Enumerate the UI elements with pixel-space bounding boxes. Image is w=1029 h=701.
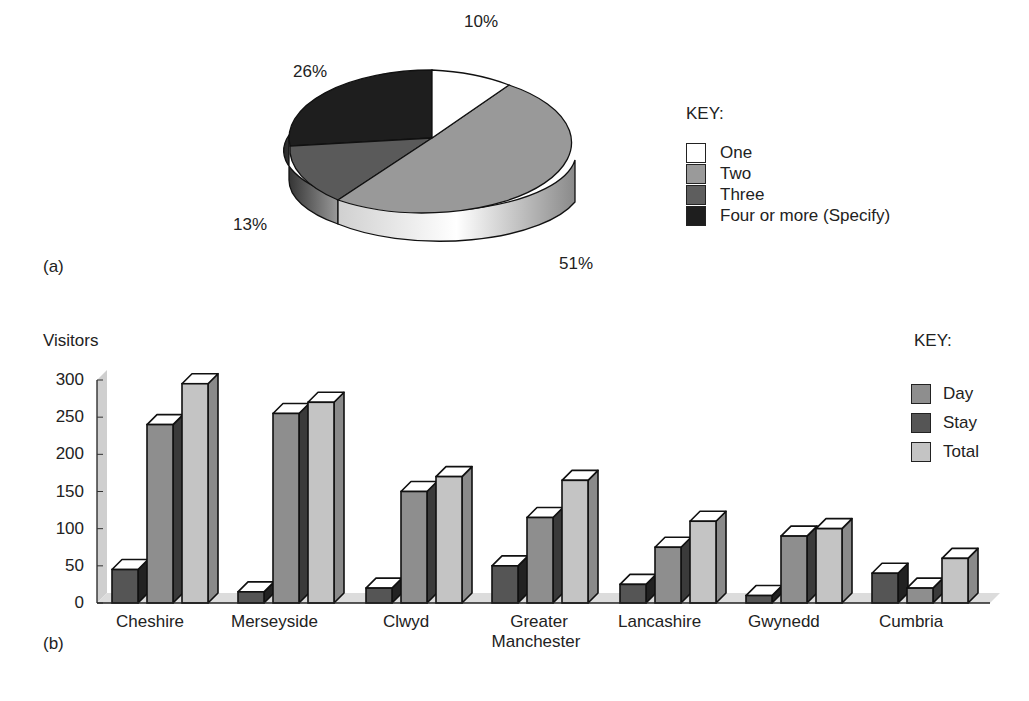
bar-legend-item: Day (911, 379, 979, 408)
bar-total (562, 470, 598, 603)
bar-total (690, 511, 726, 603)
pie-label-three: 13% (233, 215, 267, 235)
bar-day (273, 403, 309, 603)
bar-stay (492, 556, 528, 603)
bar-day (655, 537, 691, 603)
bar-total (942, 548, 978, 603)
pie-legend-item: Three (686, 184, 890, 205)
bar-total (436, 467, 472, 603)
pie-legend: KEY: One Two Three Four or more (Specify… (686, 104, 890, 226)
bar-total (816, 519, 852, 603)
axis-wall (97, 370, 107, 603)
pie-legend-item: One (686, 142, 890, 163)
legend-swatch-day (911, 384, 931, 404)
bar-stay (112, 560, 148, 603)
bar-legend-item: Total (911, 437, 979, 466)
pie-label-two: 51% (559, 254, 593, 274)
pie-legend-item: Four or more (Specify) (686, 205, 890, 226)
bar-stay (620, 574, 656, 603)
x-label-cheshire: Cheshire (116, 612, 184, 632)
bar-legend: KEY: Day Stay Total (911, 331, 979, 466)
panel-b-label: (b) (43, 634, 64, 654)
pie-label-one: 10% (464, 12, 498, 32)
panel-a-label: (a) (43, 257, 64, 277)
pie-label-four-or-more: 26% (293, 62, 327, 82)
bar-chart (0, 300, 1029, 620)
legend-swatch-total (911, 442, 931, 462)
x-label-greater-manchester: Greater Manchester (497, 612, 581, 652)
x-label-gwynedd: Gwynedd (748, 612, 820, 632)
bar-day (527, 508, 563, 603)
bar-legend-item: Stay (911, 408, 979, 437)
legend-swatch-stay (911, 413, 931, 433)
bar-day (147, 415, 183, 603)
x-category-labels: Cheshire Merseyside Clwyd Greater Manche… (0, 612, 1029, 672)
pie-legend-item: Two (686, 163, 890, 184)
bar-total (308, 392, 344, 603)
bar-stay (366, 578, 402, 603)
x-label-merseyside: Merseyside (231, 612, 318, 632)
x-label-lancashire: Lancashire (618, 612, 701, 632)
bar-day (907, 578, 943, 603)
legend-swatch-two (686, 164, 706, 184)
x-label-clwyd: Clwyd (383, 612, 429, 632)
pie-legend-title: KEY: (686, 104, 890, 124)
bar-day (781, 526, 817, 603)
bar-stay (872, 563, 908, 603)
bar-legend-title: KEY: (914, 331, 979, 351)
x-label-cumbria: Cumbria (879, 612, 943, 632)
legend-swatch-four-or-more (686, 206, 706, 226)
legend-swatch-one (686, 143, 706, 163)
bar-day (401, 482, 437, 604)
bar-total (182, 374, 218, 603)
legend-swatch-three (686, 185, 706, 205)
